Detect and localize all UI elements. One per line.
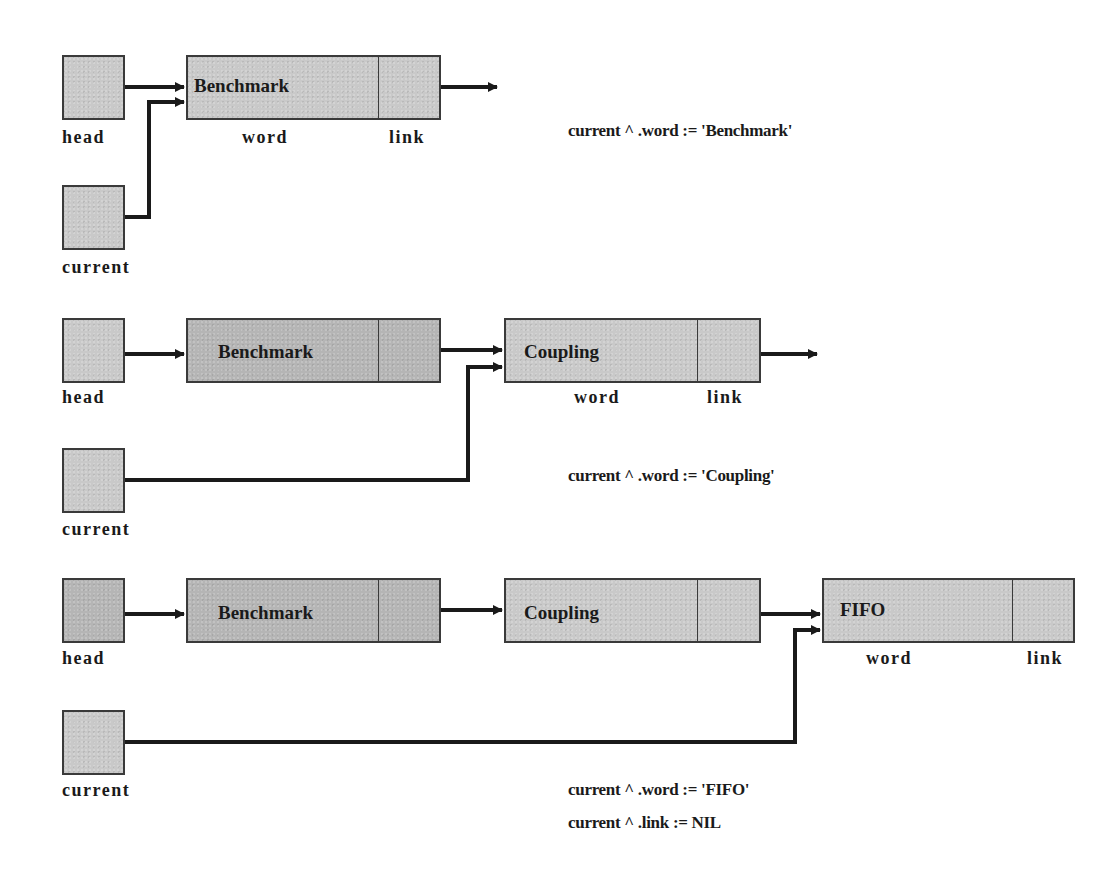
node-coupling: Coupling [504,318,761,383]
node-divider [1012,580,1013,641]
current-label: current [62,519,130,540]
head-label: head [62,387,105,408]
node-word-value: Benchmark [218,602,313,624]
statement: current ^ .word := 'Coupling' [568,466,775,486]
node-word-value: Coupling [524,341,599,363]
head-label: head [62,127,105,148]
current-to-fifo-arrow [125,630,820,742]
node-divider [697,580,698,641]
link-field-label: link [1027,648,1063,669]
node-benchmark: Benchmark [186,55,441,120]
node-word-value: Coupling [524,602,599,624]
node-fifo: FIFO [822,578,1075,643]
current-pointer-box [62,185,125,250]
node-divider [697,320,698,381]
node-divider [378,320,379,381]
head-pointer-box [62,318,125,383]
node-divider [378,57,379,118]
node-coupling: Coupling [504,578,761,643]
word-field-label: word [242,127,288,148]
word-field-label: word [866,648,912,669]
current-pointer-box [62,710,125,775]
node-divider [378,580,379,641]
statement: current ^ .word := 'Benchmark' [568,121,792,141]
node-word-value: Benchmark [218,341,313,363]
word-field-label: word [574,387,620,408]
node-benchmark: Benchmark [186,578,441,643]
link-field-label: link [389,127,425,148]
link-field-label: link [707,387,743,408]
current-label: current [62,780,130,801]
current-pointer-box [62,448,125,513]
node-word-value: FIFO [840,599,885,621]
current-to-benchmark-arrow [125,102,184,217]
head-label: head [62,648,105,669]
node-word-value: Benchmark [194,75,289,97]
current-to-coupling-arrow [125,367,502,480]
head-pointer-box [62,55,125,120]
node-benchmark: Benchmark [186,318,441,383]
arrows-layer [0,0,1120,873]
statement: current ^ .word := 'FIFO' [568,780,749,800]
head-pointer-box [62,578,125,643]
current-label: current [62,257,130,278]
statement: current ^ .link := NIL [568,813,721,833]
